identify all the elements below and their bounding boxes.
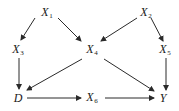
node-x1-base: X (41, 5, 48, 19)
node-x5-base: X (159, 42, 166, 56)
causal-diagram: X1 X2 X3 X4 X5 D X6 Y (0, 0, 179, 111)
node-x3: X3 (12, 43, 23, 57)
node-x6-base: X (86, 90, 93, 104)
edge-x2-to-x4 (101, 18, 137, 41)
node-y-label: Y (160, 91, 167, 105)
node-x6: X6 (86, 91, 97, 105)
edge-x4-to-d (27, 59, 82, 90)
node-d: D (14, 92, 23, 104)
node-x2-sub: 2 (148, 12, 152, 20)
node-x2: X2 (140, 6, 151, 20)
node-x3-sub: 3 (20, 49, 24, 57)
node-x4: X4 (86, 43, 97, 57)
edge-x1-to-x3 (21, 18, 35, 40)
node-x1: X1 (41, 6, 52, 20)
edge-x2-to-x5 (151, 18, 163, 41)
node-y: Y (160, 92, 167, 104)
node-x2-base: X (140, 5, 147, 19)
node-x6-sub: 6 (94, 97, 98, 105)
edge-x4-to-y (104, 59, 154, 91)
node-x4-base: X (86, 42, 93, 56)
edge-x1-to-x4 (58, 18, 81, 41)
node-x1-sub: 1 (49, 12, 53, 20)
node-x3-base: X (12, 42, 19, 56)
node-x5: X5 (159, 43, 170, 57)
node-d-label: D (14, 91, 23, 105)
node-x5-sub: 5 (167, 49, 171, 57)
node-x4-sub: 4 (94, 49, 98, 57)
